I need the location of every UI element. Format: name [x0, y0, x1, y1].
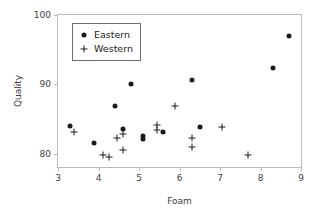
data-point-western [245, 152, 252, 159]
x-axis-label: Foam [57, 196, 302, 206]
data-point-eastern [270, 65, 275, 70]
y-tick [54, 154, 58, 155]
x-tick [261, 167, 262, 171]
y-tick-label: 100 [34, 10, 51, 20]
data-point-western [219, 123, 226, 130]
x-tick [301, 167, 302, 171]
data-point-western [119, 147, 126, 154]
chart-legend: Eastern Western [72, 23, 141, 61]
data-point-western [188, 143, 195, 150]
data-point-western [105, 154, 112, 161]
data-point-eastern [286, 33, 291, 38]
x-tick-label: 5 [136, 173, 142, 183]
data-point-western [172, 102, 179, 109]
x-tick-label: 6 [177, 173, 183, 183]
legend-item-eastern: Eastern [78, 28, 133, 42]
filled-circle-icon [78, 30, 89, 41]
data-point-western [119, 131, 126, 138]
x-tick-label: 3 [55, 173, 61, 183]
data-point-eastern [197, 125, 202, 130]
y-tick [54, 84, 58, 85]
x-tick [220, 167, 221, 171]
scatter-chart: 34567898090100 Foam Quality Eastern West… [0, 0, 321, 219]
data-point-eastern [189, 77, 194, 82]
data-point-eastern [92, 141, 97, 146]
y-tick [54, 15, 58, 16]
data-point-eastern [141, 137, 146, 142]
legend-label: Eastern [94, 30, 130, 40]
data-point-western [154, 127, 161, 134]
legend-label: Western [94, 44, 133, 54]
x-tick-label: 4 [96, 173, 102, 183]
data-point-eastern [161, 129, 166, 134]
x-tick-label: 9 [298, 173, 304, 183]
x-tick [99, 167, 100, 171]
x-tick [139, 167, 140, 171]
y-tick-label: 90 [40, 79, 51, 89]
y-axis-label: Quality [13, 75, 23, 107]
plus-icon [78, 44, 89, 55]
x-tick [58, 167, 59, 171]
data-point-western [188, 134, 195, 141]
data-point-western [71, 129, 78, 136]
data-point-eastern [112, 103, 117, 108]
x-tick [180, 167, 181, 171]
legend-item-western: Western [78, 42, 133, 56]
y-tick-label: 80 [40, 149, 51, 159]
x-tick-label: 8 [258, 173, 264, 183]
data-point-eastern [128, 82, 133, 87]
x-tick-label: 7 [217, 173, 223, 183]
